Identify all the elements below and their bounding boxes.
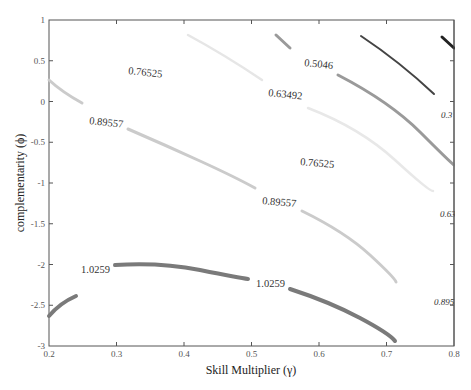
contour-label: 1.0259: [81, 264, 110, 275]
y-axis-label: complementarity (ϕ): [13, 134, 27, 233]
y-tick-label: -0.5: [31, 137, 46, 147]
plot-area: [49, 20, 454, 346]
y-tick-label: 0.5: [34, 56, 46, 66]
x-tick-label: 0.3: [111, 349, 123, 359]
x-tick-label: 0.5: [246, 349, 258, 359]
x-tick-label: 0.8: [448, 349, 460, 359]
x-tick-label: 0.7: [381, 349, 393, 359]
x-tick-label: 0.4: [178, 349, 190, 359]
x-tick-label: 0.2: [43, 349, 54, 359]
y-tick-labels: 1 0.5 0 -0.5 -1 -1.5 -2 -2.5 -3: [31, 15, 46, 351]
y-tick-label: -2: [38, 260, 46, 270]
y-tick-label: 1: [41, 15, 46, 25]
contour-label: 1.0259: [256, 278, 285, 289]
y-tick-label: -1: [38, 178, 46, 188]
y-tick-label: 0: [41, 97, 46, 107]
y-tick-label: -2.5: [31, 300, 46, 310]
y-tick-label: -3: [38, 341, 46, 351]
y-tick-label: -1.5: [31, 219, 46, 229]
x-axis-label: Skill Multiplier (γ): [206, 363, 297, 377]
x-tick-label: 0.6: [313, 349, 325, 359]
x-tick-labels: 0.2 0.3 0.4 0.5 0.6 0.7 0.8: [43, 349, 460, 359]
contour-label: 0.3: [441, 110, 453, 120]
contour-chart: 0.76525 0.89557 0.63492 0.5046 0.76525 0…: [0, 0, 471, 390]
